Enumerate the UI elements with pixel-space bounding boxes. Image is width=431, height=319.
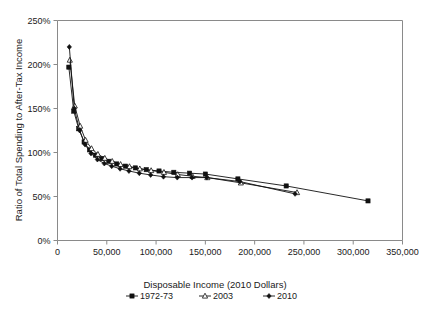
y-axis-tick-label: 50% xyxy=(32,192,50,202)
ratio-spending-income-line-chart: 0%50%100%150%200%250% 050,000100,000150,… xyxy=(0,0,431,319)
x-axis-tick-label: 350,000 xyxy=(386,247,419,257)
x-axis-tick-label: 200,000 xyxy=(238,247,271,257)
legend-label: 2010 xyxy=(277,291,297,301)
y-axis-tick-label: 0% xyxy=(37,236,50,246)
legend-label: 1972-73 xyxy=(140,291,173,301)
y-axis-tick-label: 250% xyxy=(27,16,50,26)
x-axis-tick-label: 250,000 xyxy=(288,247,321,257)
y-axis-tick-label: 150% xyxy=(27,104,50,114)
x-axis-tick-label: 300,000 xyxy=(337,247,370,257)
chart-background xyxy=(0,0,431,319)
x-axis-tick-label: 150,000 xyxy=(189,247,222,257)
y-axis-tick-label: 100% xyxy=(27,148,50,158)
x-axis-title: Disposable Income (2010 Dollars) xyxy=(143,279,286,290)
x-axis-tick-label: 100,000 xyxy=(140,247,173,257)
x-axis-tick-label: 0 xyxy=(55,247,60,257)
chart-container: 0%50%100%150%200%250% 050,000100,000150,… xyxy=(0,0,431,319)
y-axis-tick-label: 200% xyxy=(27,60,50,70)
legend-label: 2003 xyxy=(213,291,233,301)
data-point-marker xyxy=(366,199,370,203)
legend-marker xyxy=(130,294,134,298)
x-axis-tick-label: 50,000 xyxy=(93,247,121,257)
data-point-marker xyxy=(187,171,191,175)
data-point-marker xyxy=(284,184,288,188)
y-axis-title: Ratio of Total Spending to After-Tax Inc… xyxy=(13,39,24,222)
